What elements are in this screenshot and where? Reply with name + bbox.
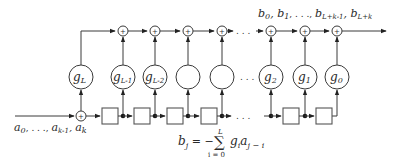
recurrence-formula: bj = − ∑ L i = 0 giaj − i: [178, 128, 265, 159]
ellipsis-mid: . . .: [240, 72, 254, 82]
svg-text:bj = −: bj = −: [178, 134, 214, 150]
svg-text:+: +: [268, 28, 274, 36]
svg-text:giaj − i: giaj − i: [230, 134, 265, 150]
svg-text:+: +: [185, 28, 191, 36]
coef-blank-2: [210, 65, 234, 89]
lfsr-diagram: . . . + + + + + + + gL gL-1 gL-2 g2 g1 g…: [0, 0, 399, 167]
shift-register: + . . .: [15, 108, 332, 124]
svg-text:+: +: [78, 113, 84, 121]
adder-top-7: +: [332, 26, 342, 36]
svg-text:+: +: [302, 28, 308, 36]
svg-text:+: +: [334, 28, 340, 36]
adder-top-6: +: [300, 26, 310, 36]
adder-top-3: +: [183, 26, 193, 36]
svg-text:+: +: [219, 28, 225, 36]
delay-3: [167, 108, 183, 124]
coef-blank-1: [176, 65, 200, 89]
adder-top-4: +: [217, 26, 227, 36]
coef-to-adder-lines: [123, 37, 337, 65]
coefficient-multipliers: gL gL-1 gL-2 g2 g1 g0 . . .: [69, 65, 349, 89]
svg-text:+: +: [120, 28, 126, 36]
ellipsis-top: . . .: [236, 26, 250, 36]
svg-text:i = 0: i = 0: [208, 151, 225, 159]
delay-4: [201, 108, 217, 124]
delay-6: [316, 108, 332, 124]
delay-1: [102, 108, 118, 124]
ellipsis-bottom: . . .: [236, 111, 250, 121]
adder-top-2: +: [150, 26, 160, 36]
input-sequence-label: a0, . . ., ak-1, ak: [14, 121, 87, 135]
output-sequence-label: b0, b1, . . ., bL+k-1, bL+k: [258, 7, 372, 21]
delay-5: [283, 108, 299, 124]
delay-2: [134, 108, 150, 124]
adder-top-5: +: [266, 26, 276, 36]
adder-top-1: +: [118, 26, 128, 36]
svg-text:+: +: [152, 28, 158, 36]
svg-text:L: L: [217, 128, 223, 136]
